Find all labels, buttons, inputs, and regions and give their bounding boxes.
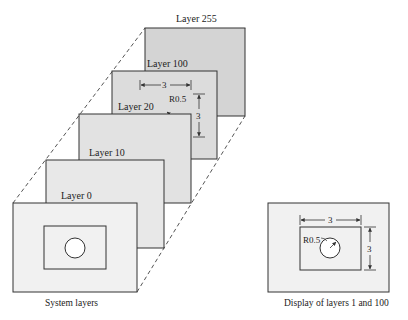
layer-20-label: Layer 20 [118, 101, 154, 112]
layer-0: Layer 0 [13, 190, 137, 292]
layer-100-radius-dim: R0.5 [169, 94, 187, 104]
layer-0-label: Layer 0 [61, 190, 92, 201]
layer-255-label: Layer 255 [176, 13, 217, 24]
system-layers-caption: System layers [45, 298, 98, 308]
display-panel: 3 3 R0.5 [268, 203, 389, 292]
display-width-dim: 3 [328, 215, 333, 225]
layer-100-width-dim: 3 [162, 80, 167, 90]
layer-100-label: Layer 100 [147, 58, 188, 69]
display-caption: Display of layers 1 and 100 [284, 298, 389, 308]
layer-diagram: Layer 255 Layer 100 3 R0.5 3 Layer 20 La… [0, 0, 408, 320]
display-height-dim: 3 [367, 244, 372, 254]
layer-100-height-dim: 3 [196, 111, 201, 121]
display-radius-dim: R0.5 [303, 235, 321, 245]
layer-10-label: Layer 10 [89, 147, 125, 158]
